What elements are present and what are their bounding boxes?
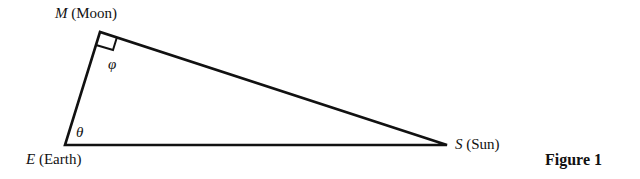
- triangle-mes: [65, 32, 447, 145]
- label-moon: M (Moon): [55, 5, 117, 22]
- triangle-diagram: [0, 0, 640, 179]
- figure-caption: Figure 1: [545, 151, 602, 169]
- label-earth: E (Earth): [26, 151, 81, 168]
- angle-theta: θ: [76, 124, 83, 141]
- angle-phi: φ: [108, 56, 116, 73]
- label-sun: S (Sun): [455, 136, 500, 153]
